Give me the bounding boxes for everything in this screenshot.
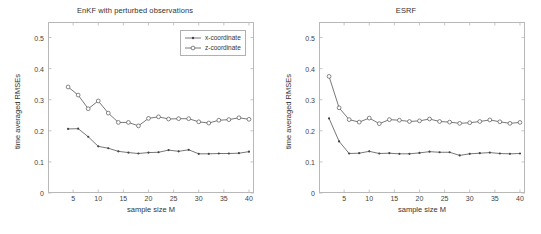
data-point [97, 145, 99, 147]
x-axis-title: sample size M [48, 205, 254, 214]
chart-panel-enkf: EnKF with perturbed observations 00.10.2… [0, 0, 270, 234]
data-point [137, 152, 139, 154]
data-point [188, 149, 190, 151]
series-line-x-coordinate [68, 129, 249, 154]
x-tick-label: 20 [145, 195, 153, 202]
data-point [459, 154, 461, 156]
x-tick-label: 25 [441, 195, 449, 202]
data-point [509, 153, 511, 155]
x-tick-label: 15 [119, 195, 127, 202]
data-point [479, 152, 481, 154]
data-point [469, 153, 471, 155]
data-point [228, 152, 230, 154]
data-point [248, 151, 250, 153]
data-point [178, 150, 180, 152]
data-point [177, 117, 181, 121]
data-point [508, 121, 512, 125]
panel-title: ESRF [271, 6, 541, 15]
data-point [167, 117, 171, 121]
x-tick-label: 10 [365, 195, 373, 202]
data-point [428, 117, 432, 121]
data-point [208, 153, 210, 155]
x-tick-label: 15 [390, 195, 398, 202]
data-point [338, 140, 340, 142]
data-point [518, 121, 522, 125]
y-tick-label: 0 [16, 190, 44, 197]
legend-marker-circle-icon [184, 43, 202, 53]
data-point [167, 149, 169, 151]
legend: x-coordinate z-coordinate [180, 30, 246, 56]
data-point [327, 75, 331, 79]
data-point [398, 153, 400, 155]
data-point [449, 151, 451, 153]
data-point [448, 120, 452, 124]
data-point [418, 152, 420, 154]
data-point [147, 151, 149, 153]
data-point [358, 152, 360, 154]
legend-label: x-coordinate [205, 33, 241, 43]
legend-marker-dot-icon [184, 33, 202, 43]
x-tick-label: 10 [94, 195, 102, 202]
data-point [106, 111, 110, 115]
data-point [468, 121, 472, 125]
x-tick-label: 20 [416, 195, 424, 202]
data-point [397, 118, 401, 122]
y-tick-label: 0.5 [287, 34, 315, 41]
x-tick-label: 25 [170, 195, 178, 202]
data-point [117, 150, 119, 152]
data-point [116, 121, 120, 125]
x-tick-label: 5 [342, 195, 346, 202]
data-point [367, 116, 371, 120]
data-point [77, 128, 79, 130]
data-point [328, 117, 330, 119]
data-point [498, 120, 502, 124]
plot-series-layer [319, 22, 525, 193]
x-tick-label: 30 [466, 195, 474, 202]
data-point [137, 124, 141, 128]
data-point [478, 120, 482, 124]
data-point [388, 152, 390, 154]
data-point [238, 152, 240, 154]
data-point [337, 106, 341, 110]
data-point [377, 122, 381, 126]
series-line-z-coordinate [329, 76, 520, 123]
x-tick-label: 35 [491, 195, 499, 202]
data-point [157, 115, 161, 119]
data-point [87, 136, 89, 138]
data-point [217, 118, 221, 122]
data-point [147, 116, 151, 120]
data-point [488, 118, 492, 122]
data-point [187, 117, 191, 121]
data-point [107, 147, 109, 149]
data-point [458, 121, 462, 125]
data-point [76, 93, 80, 97]
x-tick-label: 5 [71, 195, 75, 202]
y-tick-label: 0 [287, 190, 315, 197]
data-point [218, 152, 220, 154]
data-point [428, 151, 430, 153]
legend-item-x-coordinate: x-coordinate [184, 33, 241, 43]
data-point [368, 150, 370, 152]
data-point [519, 152, 521, 154]
x-tick-label: 30 [195, 195, 203, 202]
data-point [207, 121, 211, 125]
data-point [197, 120, 201, 124]
series-line-z-coordinate [68, 87, 249, 126]
panel-title: EnKF with perturbed observations [0, 6, 270, 15]
x-tick-label: 40 [516, 195, 524, 202]
data-point [347, 118, 351, 122]
y-tick-label: 0.5 [16, 34, 44, 41]
legend-label: z-coordinate [205, 43, 241, 53]
data-point [237, 116, 241, 120]
legend-item-z-coordinate: z-coordinate [184, 43, 241, 53]
data-point [378, 152, 380, 154]
data-point [408, 120, 412, 124]
data-point [438, 120, 442, 124]
data-point [489, 151, 491, 153]
series-line-x-coordinate [329, 118, 520, 155]
data-point [198, 153, 200, 155]
figure-canvas: EnKF with perturbed observations 00.10.2… [0, 0, 541, 234]
data-point [67, 128, 69, 130]
data-point [227, 118, 231, 122]
data-point [387, 118, 391, 122]
